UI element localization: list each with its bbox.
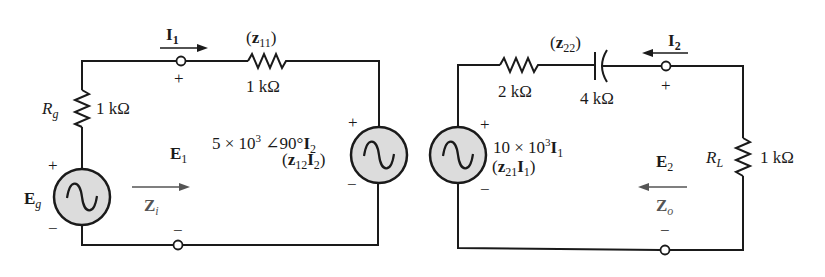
i1-arrowhead-icon	[197, 44, 208, 52]
output-bottom-terminal	[661, 246, 670, 255]
i1-sub: 1	[173, 33, 179, 47]
rg-resistor	[75, 90, 89, 127]
input-top-right-wire	[288, 61, 379, 127]
i2-label: I2	[668, 32, 681, 52]
output-left-wire	[458, 65, 500, 127]
zo-sub: o	[667, 204, 673, 218]
z22-label: (z22)	[550, 34, 581, 54]
i2-symbol: I	[668, 31, 675, 50]
z22-resistor	[500, 58, 540, 72]
z21-param-sub: 21	[505, 165, 517, 179]
z12-param-var: I	[307, 150, 314, 169]
zi-label: Zi	[144, 197, 159, 217]
eg-minus-sign: −	[48, 220, 58, 237]
z21-plus-sign: +	[480, 116, 490, 133]
eg-sub: g	[35, 197, 41, 211]
z21-coef: 10 × 10	[493, 138, 545, 157]
input-top-terminal	[177, 57, 186, 66]
e2-label: E2	[656, 153, 673, 173]
z11-label: (z11)	[246, 29, 276, 49]
z12-coef: 5 × 10	[212, 134, 256, 153]
i2-sub: 2	[675, 39, 681, 53]
z12-plus-sign: +	[348, 114, 358, 131]
e1-label: E1	[170, 145, 187, 165]
eg-plus-sign: +	[48, 157, 58, 174]
z22-sub: 22	[563, 41, 575, 55]
rg-sub: g	[52, 107, 58, 121]
rl-label: RL	[706, 149, 723, 169]
z12-param-label: (z12I2)	[282, 151, 326, 171]
z22-resistor-value: 2 kΩ	[498, 83, 532, 100]
input-bottom-terminal	[174, 241, 183, 250]
eg-label: Eg	[24, 190, 41, 210]
z11-sub: 11	[259, 36, 271, 50]
rg-value: 1 kΩ	[96, 100, 130, 117]
rg-symbol: R	[42, 99, 52, 118]
zi-sub: i	[155, 204, 158, 218]
i1-label: I1	[166, 26, 179, 46]
z11-value: 1 kΩ	[246, 78, 280, 95]
zo-arrowhead-icon	[638, 183, 649, 191]
z21-minus-sign: −	[480, 181, 490, 198]
i2-arrowhead-icon	[642, 49, 653, 57]
z22-capacitor-value: 4 kΩ	[580, 90, 614, 107]
z22-paren-close: )	[575, 33, 581, 52]
output-minus-sign: −	[660, 222, 670, 239]
z12-minus-sign: −	[347, 176, 357, 193]
zo-symbol: Z	[656, 196, 667, 215]
input-plus-sign: +	[174, 70, 184, 87]
output-top-right-wire	[670, 66, 743, 138]
zi-symbol: Z	[144, 196, 155, 215]
input-minus-sign: −	[173, 222, 183, 239]
z12-paren-close: )	[320, 150, 326, 169]
rl-value: 1 kΩ	[760, 149, 794, 166]
z21-var-sub: 1	[557, 146, 563, 160]
output-plus-sign: +	[661, 77, 671, 94]
z11-resistor	[248, 54, 288, 68]
zo-label: Zo	[656, 197, 673, 217]
e1-symbol: E	[170, 144, 181, 163]
e1-sub: 1	[181, 152, 187, 166]
z21-param-label: (z21I1)	[492, 158, 536, 178]
eg-symbol: E	[24, 189, 35, 208]
e2-sub: 2	[667, 160, 673, 174]
output-top-terminal	[662, 62, 671, 71]
i1-symbol: I	[166, 25, 173, 44]
z12-param-sub: 12	[295, 158, 307, 172]
rg-label: Rg	[42, 100, 58, 120]
z11-paren-close: )	[271, 28, 277, 47]
rl-sub: L	[716, 156, 723, 170]
rl-resistor	[736, 138, 750, 176]
zi-arrowhead-icon	[179, 183, 190, 191]
z21-paren-close: )	[530, 157, 536, 176]
input-top-wire	[82, 61, 177, 90]
rl-symbol: R	[706, 148, 716, 167]
z21-expression: 10 × 103I1	[493, 137, 563, 159]
z21-param-var: I	[517, 157, 524, 176]
circuit-diagram	[0, 0, 825, 277]
e2-symbol: E	[656, 152, 667, 171]
input-bottom-wire	[82, 225, 174, 245]
